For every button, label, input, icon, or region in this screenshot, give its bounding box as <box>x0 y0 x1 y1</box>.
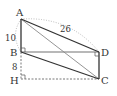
segment-bc <box>21 52 99 79</box>
label-c: C <box>101 75 109 86</box>
label-a: A <box>15 7 24 18</box>
label-h: H <box>10 75 19 86</box>
measure-ad: 26 <box>60 24 71 34</box>
label-b: B <box>10 47 17 58</box>
geometry-figure: A B H D C 10 26 8 <box>0 0 117 96</box>
measure-ab: 10 <box>5 33 16 43</box>
label-d: D <box>101 47 109 58</box>
right-angle-mark-h <box>21 75 25 79</box>
measure-bh: 8 <box>12 62 17 72</box>
